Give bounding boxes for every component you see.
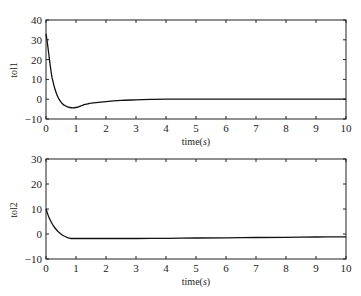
ytick-label: 30 — [31, 34, 43, 46]
ytick-label: 40 — [31, 14, 43, 26]
subplot-tol1: 012345678910 −10010203040 tol1 time(s) — [8, 14, 352, 148]
line-tol1 — [46, 34, 346, 108]
xtick-label: 5 — [193, 122, 199, 134]
xtick-label: 0 — [43, 122, 49, 134]
xtick-label: 8 — [283, 122, 289, 134]
line-tol2 — [46, 209, 346, 239]
ytick-label: 20 — [31, 178, 43, 190]
ytick-label: 0 — [37, 228, 43, 240]
xtick-label: 7 — [253, 122, 259, 134]
xtick-label: 7 — [253, 262, 259, 274]
xtick-label: 1 — [73, 122, 79, 134]
xtick-label: 9 — [313, 262, 319, 274]
axes-box-tol2 — [46, 159, 346, 259]
xtick-label: 9 — [313, 122, 319, 134]
xtick-label: 3 — [133, 262, 139, 274]
xtick-label: 4 — [163, 262, 169, 274]
xlabel-tol1: time(s) — [182, 136, 210, 148]
xtick-labels-tol2: 012345678910 — [43, 262, 352, 274]
xtick-labels-tol1: 012345678910 — [43, 122, 352, 134]
xtick-label: 2 — [103, 262, 109, 274]
ytick-label: −10 — [25, 113, 43, 125]
figure: 012345678910 −10010203040 tol1 time(s) 0… — [0, 0, 361, 296]
xtick-label: 8 — [283, 262, 289, 274]
ytick-label: 30 — [31, 153, 43, 165]
xtick-label: 10 — [341, 122, 353, 134]
xtick-label: 6 — [223, 262, 229, 274]
xtick-label: 3 — [133, 122, 139, 134]
ytick-labels-tol1: −10010203040 — [25, 14, 43, 125]
ticks-tol1 — [46, 20, 346, 119]
xtick-label: 0 — [43, 262, 49, 274]
xtick-label: 1 — [73, 262, 79, 274]
ylabel-tol2: tol2 — [8, 202, 19, 218]
xtick-label: 6 — [223, 122, 229, 134]
xtick-label: 10 — [341, 262, 353, 274]
xtick-label: 5 — [193, 262, 199, 274]
xlabel-tol2: time(s) — [182, 276, 210, 288]
ticks-tol2 — [46, 159, 346, 259]
ytick-label: 20 — [31, 54, 43, 66]
ytick-label: 10 — [31, 203, 43, 215]
ytick-label: 10 — [31, 73, 43, 85]
ytick-label: −10 — [25, 253, 43, 265]
xtick-label: 4 — [163, 122, 169, 134]
subplot-tol2: 012345678910 −100102030 tol2 time(s) — [8, 153, 352, 288]
xtick-label: 2 — [103, 122, 109, 134]
ytick-labels-tol2: −100102030 — [25, 153, 43, 265]
ylabel-tol1: tol1 — [8, 62, 19, 78]
axes-box-tol1 — [46, 20, 346, 119]
ytick-label: 0 — [37, 93, 43, 105]
